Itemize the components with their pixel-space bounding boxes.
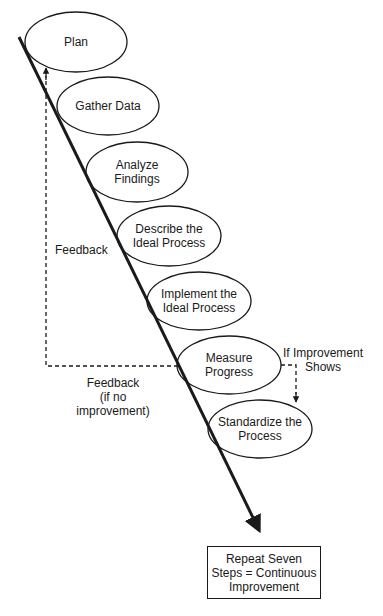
step-label-analyze-findings: Analyze Findings	[114, 158, 159, 186]
continuous-improvement-box: Repeat Seven Steps = Continuous Improvem…	[207, 546, 321, 599]
step-label-gather-data: Gather Data	[75, 99, 140, 113]
continuous-improvement-label: Repeat Seven Steps = Continuous Improvem…	[211, 552, 316, 594]
step-label-standardize-process: Standardize the Process	[218, 415, 302, 443]
improvement-label: If Improvement Shows	[281, 346, 365, 374]
step-label-measure-progress: Measure Progress	[205, 351, 253, 379]
step-label-plan: Plan	[64, 35, 88, 49]
step-label-describe-ideal-process: Describe the Ideal Process	[133, 222, 206, 250]
feedback-label: Feedback	[55, 243, 108, 257]
step-label-implement-ideal-process: Implement the Ideal Process	[161, 287, 237, 315]
feedback-no-improvement-label: Feedback (if no improvement)	[63, 376, 163, 418]
